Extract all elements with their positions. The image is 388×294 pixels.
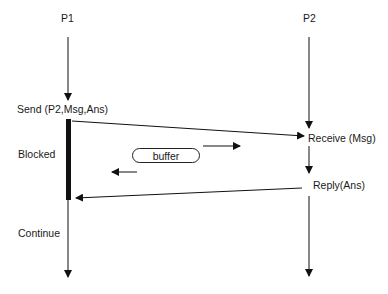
send-label: Send (P2,Msg,Ans) [17, 104, 108, 115]
reply-label: Reply(Ans) [313, 180, 365, 191]
blocked-label: Blocked [18, 149, 55, 160]
p2-label: P2 [303, 13, 316, 24]
buffer-box: buffer [132, 148, 200, 163]
p1-blocked-bar [66, 119, 71, 200]
reply-message-arrow [76, 188, 302, 198]
receive-label: Receive (Msg) [308, 133, 376, 144]
diagram-canvas [0, 0, 388, 294]
continue-label: Continue [18, 228, 60, 239]
send-message-arrow [72, 121, 304, 136]
buffer-label: buffer [153, 150, 180, 162]
p1-label: P1 [61, 13, 74, 24]
